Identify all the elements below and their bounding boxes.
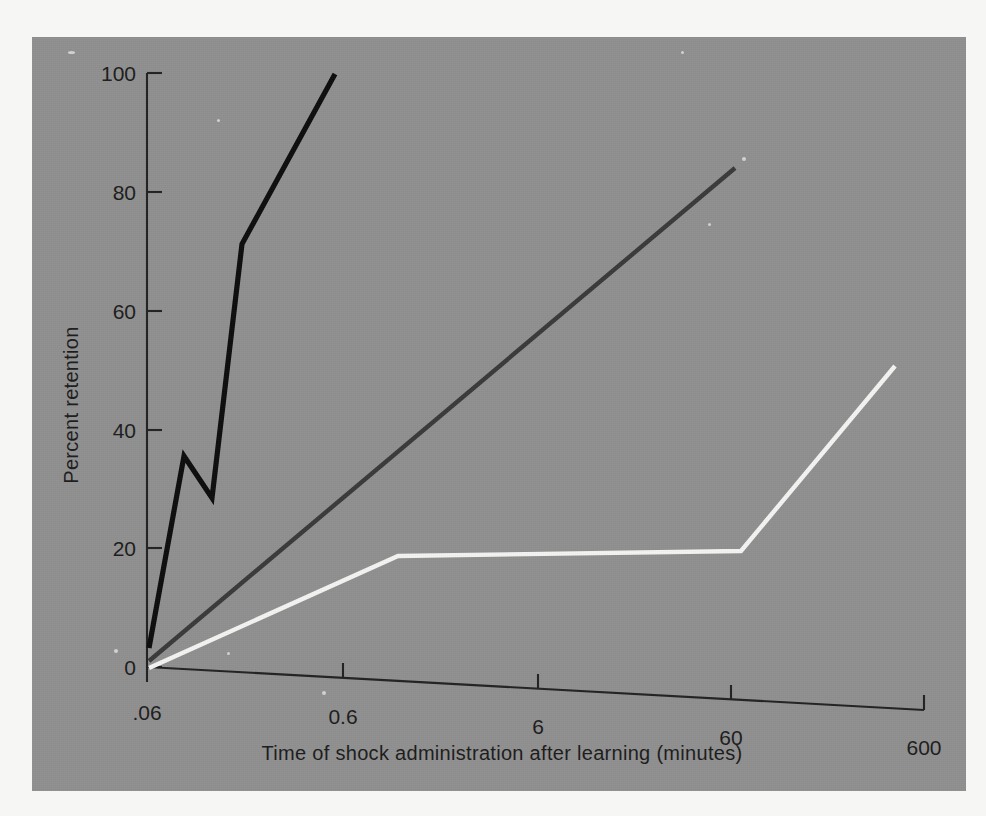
dust-speck	[114, 649, 118, 653]
dust-speck	[681, 51, 684, 54]
dust-speck	[227, 652, 230, 655]
y-tick-label-20: 20	[113, 537, 136, 560]
dust-speck	[742, 157, 746, 161]
plot-area: 100 80 60 40 20 0 Percent retention	[32, 37, 966, 791]
series-white-curve	[149, 366, 895, 668]
x-tick-label-6: 6	[532, 715, 544, 738]
y-tick-label-60: 60	[113, 300, 136, 323]
x-tick-label-06: 0.6	[328, 705, 357, 728]
x-tick-label-006: .06	[132, 701, 161, 724]
y-axis-title: Percent retention	[60, 326, 82, 483]
y-tick-label-80: 80	[113, 181, 136, 204]
chart-svg: 100 80 60 40 20 0 Percent retention	[32, 37, 966, 791]
y-tick-label-100: 100	[101, 62, 136, 85]
figure-page: 100 80 60 40 20 0 Percent retention	[0, 0, 986, 816]
series-dark-gray-curve	[149, 168, 735, 661]
y-axis: 100 80 60 40 20 0 Percent retention	[60, 62, 162, 679]
dust-speck	[322, 691, 326, 695]
dust-speck	[68, 51, 75, 54]
x-tick-label-600: 600	[906, 736, 941, 759]
x-axis-line	[147, 667, 924, 710]
dust-speck	[217, 119, 220, 122]
x-axis-title: Time of shock administration after learn…	[262, 742, 743, 764]
x-axis: .06 0.6 6 60 600 Time of shock administr…	[132, 663, 941, 764]
chart-panel: 100 80 60 40 20 0 Percent retention	[32, 37, 966, 791]
dust-speck	[708, 223, 711, 226]
y-tick-label-0: 0	[124, 656, 136, 679]
series-black-curve	[149, 74, 335, 648]
y-tick-label-40: 40	[113, 419, 136, 442]
